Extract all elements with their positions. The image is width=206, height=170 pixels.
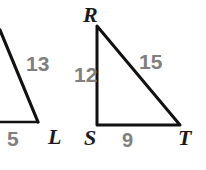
vertex-label-s: S xyxy=(84,127,96,149)
left-triangle-hypotenuse xyxy=(0,30,38,122)
triangle-rst-outline xyxy=(97,26,180,125)
side-length-5: 5 xyxy=(7,128,19,149)
geometry-figure-canvas: 13 5 L R 12 15 S 9 T xyxy=(0,0,206,170)
triangles-drawing xyxy=(0,0,206,170)
side-length-9: 9 xyxy=(122,130,133,150)
vertex-label-l: L xyxy=(48,126,61,148)
vertex-label-t: T xyxy=(178,127,191,149)
side-length-12: 12 xyxy=(74,64,97,85)
left-triangle-shape xyxy=(0,30,38,122)
right-triangle-RST-shape xyxy=(97,26,180,125)
vertex-label-r: R xyxy=(83,4,98,26)
side-length-15: 15 xyxy=(139,51,162,72)
side-length-13: 13 xyxy=(26,53,49,74)
